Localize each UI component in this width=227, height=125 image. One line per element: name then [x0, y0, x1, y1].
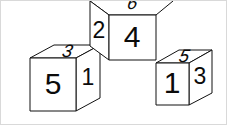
left-die-front-digit: 5	[45, 67, 62, 100]
middle-die: 6 2 4	[90, 1, 173, 60]
right-die: 5 3 1	[156, 46, 212, 105]
middle-die-front-digit: 4	[124, 20, 141, 53]
middle-die-left-digit: 2	[93, 17, 106, 43]
dice-illustration: 3 1 5 6 2 4 5 3 1	[1, 1, 227, 125]
dice-scene: 3 1 5 6 2 4 5 3 1	[0, 0, 227, 125]
right-die-right-digit: 3	[194, 63, 207, 89]
left-die: 3 1 5	[30, 41, 100, 111]
right-die-front-digit: 1	[164, 66, 181, 99]
left-die-right-digit: 1	[82, 64, 95, 90]
